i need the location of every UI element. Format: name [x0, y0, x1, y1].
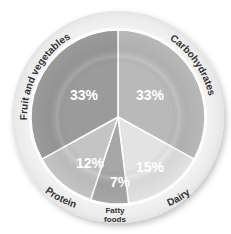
- plate-pie-chart: 33% 33% 12% 15% 7% Fruit and vegetables …: [0, 0, 231, 234]
- pct-label-fruit-and-vegetables: 33%: [70, 87, 99, 103]
- pct-label-dairy: 15%: [136, 159, 165, 175]
- category-label-fatty-foods-line1: Fatty: [105, 206, 125, 215]
- pct-label-protein: 12%: [76, 155, 105, 171]
- pct-label-carbohydrates: 33%: [136, 87, 165, 103]
- category-label-fatty-foods-line2: foods: [104, 215, 126, 224]
- pct-label-fatty-foods: 7%: [110, 174, 131, 190]
